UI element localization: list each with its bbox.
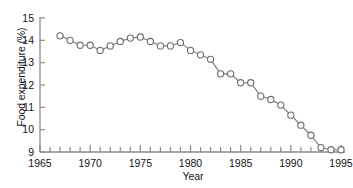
data-point-marker [258, 93, 264, 99]
data-point-marker [197, 52, 203, 58]
data-point-marker [298, 122, 304, 128]
y-axis-tick-label: 13 [22, 56, 34, 68]
x-axis-tick-label: 1980 [179, 157, 203, 169]
data-point-marker [137, 34, 143, 40]
data-point-marker [117, 38, 123, 44]
x-axis-title: Year [38, 170, 348, 182]
y-axis-tick-label: 15 [22, 12, 34, 24]
data-point-marker [308, 132, 314, 138]
data-point-marker [167, 43, 173, 49]
data-point-marker [268, 96, 274, 102]
data-point-marker [177, 39, 183, 45]
x-axis-tick-label: 1970 [78, 157, 102, 169]
data-point-marker [147, 38, 153, 44]
data-point-marker [278, 102, 284, 108]
data-point-marker [187, 47, 193, 53]
data-point-marker [157, 43, 163, 49]
data-point-marker [248, 80, 254, 86]
data-point-marker [218, 71, 224, 77]
chart-container: Food expenditure (%) 9101112131415196519… [0, 0, 353, 188]
data-point-marker [67, 37, 73, 43]
y-axis-tick-label: 10 [22, 123, 34, 135]
data-point-marker [127, 35, 133, 41]
y-axis-tick-label: 11 [23, 101, 34, 113]
x-axis-tick-label: 1975 [129, 157, 153, 169]
data-point-marker [288, 112, 294, 118]
data-point-marker [328, 147, 334, 153]
data-point-marker [338, 147, 344, 153]
data-point-marker [238, 80, 244, 86]
y-axis-tick-label: 9 [28, 146, 34, 158]
data-point-marker [228, 71, 234, 77]
line-chart-plot: 9101112131415196519701975198019851990199… [0, 0, 353, 188]
y-axis-tick-label: 12 [22, 79, 34, 91]
x-axis-tick-label: 1990 [279, 157, 303, 169]
data-point-marker [57, 33, 63, 39]
x-axis-tick-label: 1995 [329, 157, 353, 169]
data-point-marker [97, 47, 103, 53]
data-point-marker [77, 42, 83, 48]
y-axis-tick-label: 14 [22, 34, 34, 46]
x-axis-tick-label: 1965 [28, 157, 52, 169]
data-point-marker [107, 43, 113, 49]
data-point-marker [318, 144, 324, 150]
data-point-marker [207, 56, 213, 62]
data-point-marker [87, 42, 93, 48]
x-axis-tick-label: 1985 [229, 157, 253, 169]
